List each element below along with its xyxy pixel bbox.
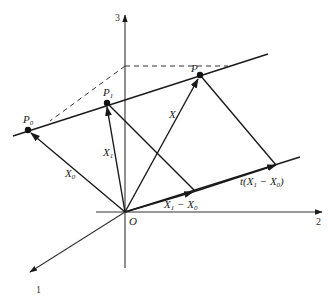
label-X1-minus-X0: X1 − X0 (163, 198, 198, 212)
point-P (197, 72, 203, 78)
axis-2-label: 2 (316, 216, 321, 227)
vector-X0 (31, 133, 125, 212)
label-X1: X1 (102, 146, 113, 160)
connector-P1 (107, 103, 195, 191)
label-P1: P1 (102, 86, 113, 100)
line-through-points (13, 54, 268, 136)
vector-line-diagram: 3 2 1 P0 P1 P X0 X1 X X1 − X0 t(X1 − X0)… (0, 0, 335, 304)
axis-1-label: 1 (36, 284, 41, 295)
label-origin: O (129, 215, 137, 227)
point-P1 (104, 100, 110, 106)
connector-P (200, 75, 276, 165)
axis-1-line (30, 212, 125, 272)
axis-3-label: 3 (115, 12, 120, 23)
label-X: X (168, 108, 177, 120)
label-t-X1-minus-X0: t(X1 − X0) (240, 175, 284, 189)
point-P0 (25, 127, 31, 133)
label-P: P (190, 62, 198, 74)
label-P0: P0 (22, 113, 34, 127)
